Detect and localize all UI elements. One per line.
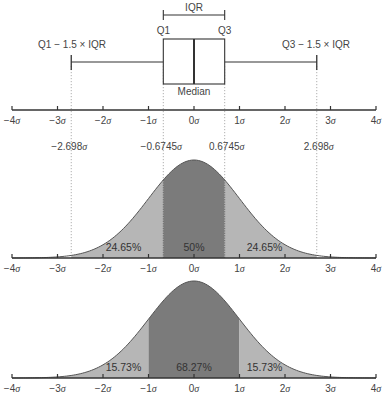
tick-label: −2σ: [95, 263, 112, 274]
tick-label: −2σ: [95, 383, 112, 394]
tick-label: 0σ: [189, 263, 201, 274]
region-percent-label: 15.73%: [247, 361, 283, 373]
density-iqr: −2.698σ−0.6745σ0.6745σ2.698σ24.65%50%24.…: [12, 141, 376, 258]
tick-label: −1σ: [140, 383, 157, 394]
tick-label: −3σ: [49, 115, 66, 126]
tick-label: 1σ: [234, 263, 246, 274]
normal-distribution-boxplot-figure: IQRQ1Q3MedianQ1 − 1.5 × IQRQ3 − 1.5 × IQ…: [0, 0, 385, 416]
region-percent-label: 24.65%: [106, 241, 142, 253]
tick-label: 2σ: [280, 115, 292, 126]
tick-label: 4σ: [371, 383, 383, 394]
tick-label: 4σ: [371, 263, 383, 274]
tick-label: 3σ: [325, 383, 337, 394]
density-one-sigma: 15.73%68.27%15.73%: [12, 281, 376, 378]
q1-label: Q1: [157, 25, 171, 36]
tick-label: 2σ: [280, 263, 292, 274]
tick-label: −4σ: [4, 383, 21, 394]
tick-label: 2σ: [280, 383, 292, 394]
tick-label: −4σ: [4, 115, 21, 126]
tick-label: 3σ: [325, 115, 337, 126]
iqr-label: IQR: [185, 2, 203, 13]
x-axis-1: −4σ−3σ−2σ−1σ0σ1σ2σ3σ4σ: [4, 106, 382, 126]
tick-label: −3σ: [49, 263, 66, 274]
tick-label: −1σ: [140, 115, 157, 126]
tick-label: 4σ: [371, 115, 383, 126]
tick-label: 0σ: [189, 383, 201, 394]
boxplot: IQRQ1Q3MedianQ1 − 1.5 × IQRQ3 − 1.5 × IQ…: [38, 2, 350, 97]
figure-canvas: IQRQ1Q3MedianQ1 − 1.5 × IQRQ3 − 1.5 × IQ…: [0, 0, 385, 416]
region-percent-label: 15.73%: [106, 361, 142, 373]
upper-fence-label: Q3 − 1.5 × IQR: [282, 39, 350, 50]
tick-label: −2σ: [95, 115, 112, 126]
tick-label: 0σ: [189, 115, 201, 126]
tick-label: −4σ: [4, 263, 21, 274]
quantile-marker-label: −2.698σ: [51, 141, 88, 152]
quantile-marker-label: −0.6745σ: [141, 141, 183, 152]
tick-label: 3σ: [325, 263, 337, 274]
q3-label: Q3: [218, 25, 232, 36]
region-percent-label: 50%: [183, 241, 204, 253]
quantile-marker-label: 2.698σ: [304, 141, 335, 152]
lower-fence-label: Q1 − 1.5 × IQR: [38, 39, 106, 50]
region-percent-label: 68.27%: [176, 361, 212, 373]
median-label: Median: [178, 86, 211, 97]
tick-label: −1σ: [140, 263, 157, 274]
region-percent-label: 24.65%: [247, 241, 283, 253]
tick-label: 1σ: [234, 115, 246, 126]
tick-label: 1σ: [234, 383, 246, 394]
quantile-marker-label: 0.6745σ: [209, 141, 246, 152]
tick-label: −3σ: [49, 383, 66, 394]
